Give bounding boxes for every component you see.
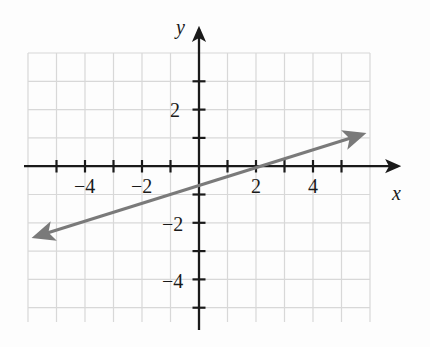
x-tick-label-minus-2: −2 — [131, 176, 152, 196]
x-tick-label-minus-4: −4 — [74, 176, 95, 196]
y-tick-label-minus-4: −4 — [162, 271, 183, 291]
x-tick-label-2: 2 — [251, 176, 261, 196]
y-tick-label-minus-2: −2 — [162, 214, 183, 234]
graph-figure: −4 −2 2 4 2 −2 −4 y x — [0, 0, 430, 347]
y-axis-label: y — [176, 17, 185, 37]
x-tick-label-4: 4 — [308, 176, 318, 196]
coordinate-plane-svg — [0, 0, 430, 347]
x-axis-label: x — [392, 183, 401, 203]
y-tick-label-2: 2 — [170, 100, 180, 120]
